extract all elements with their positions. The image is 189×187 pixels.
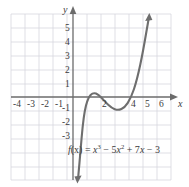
y-axis-label: y — [63, 5, 67, 15]
equation-minus-one: − 5 — [101, 144, 117, 155]
y-tick-label: -2 — [62, 118, 70, 128]
y-tick-label: 2 — [65, 66, 70, 76]
x-tick-label: -2 — [41, 100, 49, 110]
x-axis-label: x — [178, 99, 182, 109]
equation-argument: (x) — [71, 144, 83, 155]
function-curve — [74, 13, 152, 184]
equation-plus: + 7 — [124, 144, 140, 155]
graph-figure: y x -4 -3 -2 -1 2 4 5 6 5 4 3 2 1 -1 -2 … — [0, 0, 189, 187]
x-tick-label: 2 — [102, 100, 107, 110]
equation-equals: = — [82, 144, 93, 155]
y-tick-label: 3 — [65, 52, 70, 62]
x-tick-label: 6 — [159, 100, 164, 110]
y-tick-label: -1 — [62, 104, 70, 114]
x-tick-label: -3 — [27, 100, 35, 110]
y-tick-label: 1 — [65, 80, 70, 90]
x-tick-label: 5 — [145, 100, 150, 110]
y-tick-label: -3 — [62, 132, 70, 142]
y-tick-label: 5 — [65, 24, 70, 34]
coordinate-plot — [0, 0, 189, 187]
x-tick-label: -4 — [13, 100, 21, 110]
x-axis — [11, 94, 178, 101]
x-tick-label: 4 — [131, 100, 136, 110]
y-tick-label: 4 — [65, 38, 70, 48]
function-equation: f(x) = x3 − 5x2 + 7x − 3 — [68, 145, 160, 155]
equation-minus-two: − 3 — [144, 144, 160, 155]
